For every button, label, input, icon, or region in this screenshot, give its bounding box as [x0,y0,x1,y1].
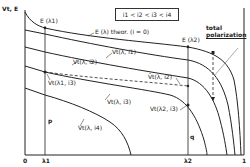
label-vt-i2: Vt(λ, i2) [73,59,97,65]
arrow-tail-icon [212,51,215,54]
label-vbar-i2: V̄t(λ, i2) [148,74,172,80]
arrow-head-icon [211,97,215,101]
point-vt-l2-i3 [187,104,190,107]
label-vt-i1: Vt(λ, i1) [112,49,136,55]
label-vt-i3: Vt(λ, i3) [107,99,131,105]
label-polarization: polarization [206,32,246,38]
label-vt-l2-i3: Vt(λ2, i3) [150,106,178,112]
x-tick-lambda1: λ1 [42,158,50,164]
leader-vt-l2-i3 [180,106,186,110]
x-tick-1: 1 [242,158,246,164]
total-polarization-leader [214,48,238,76]
label-e-lambda2: E (λ2) [182,37,200,43]
x-tick-lambda2: λ2 [184,158,192,164]
label-vt-i4: Vt(λ, i4) [78,125,102,131]
label-q: q [190,134,194,140]
label-p: p [48,118,52,124]
y-axis-label: Vt, E [2,6,18,12]
legend-box: i1 < i2 < i3 < i4 [115,8,179,21]
point-vbar-l2 [187,85,189,87]
label-vt-l1-i3: Vt(λ1, i3) [48,80,76,86]
point-e-lambda1 [44,27,47,30]
point-e-lambda2 [187,46,190,49]
label-e-theor: E (λ) theor. (i = 0) [95,29,149,35]
x-tick-0: 0 [23,158,27,164]
point-vt-l1-i3 [44,71,47,74]
label-e-lambda1: E (λ1) [40,18,58,24]
leader-vbar [176,78,180,84]
